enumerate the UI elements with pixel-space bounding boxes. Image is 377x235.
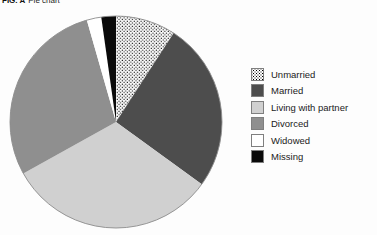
pie-chart <box>9 15 223 229</box>
legend-swatch-missing <box>251 150 264 163</box>
legend-item-missing: Missing <box>251 151 348 163</box>
legend-item-married: Married <box>251 85 348 97</box>
legend-label-living-with-partner: Living with partner <box>271 102 348 113</box>
legend-swatch-unmarried <box>251 68 264 81</box>
figure-caption: FIG. APie chart <box>2 0 60 5</box>
legend-swatch-divorced <box>251 117 264 130</box>
figure-canvas: FIG. APie chart Unmarried Married Living… <box>0 0 377 235</box>
figure-caption-title: Pie chart <box>28 0 60 5</box>
legend-item-unmarried: Unmarried <box>251 68 348 80</box>
legend-swatch-married <box>251 84 264 97</box>
legend-item-living-with-partner: Living with partner <box>251 101 348 113</box>
legend-item-divorced: Divorced <box>251 118 348 130</box>
chart-legend: Unmarried Married Living with partner Di… <box>251 68 348 163</box>
legend-label-divorced: Divorced <box>271 118 309 129</box>
legend-item-widowed: Widowed <box>251 134 348 146</box>
legend-swatch-living-with-partner <box>251 101 264 114</box>
legend-label-widowed: Widowed <box>271 135 310 146</box>
legend-label-missing: Missing <box>271 151 303 162</box>
figure-caption-prefix: FIG. A <box>2 0 25 5</box>
legend-swatch-widowed <box>251 134 264 147</box>
legend-label-unmarried: Unmarried <box>271 69 315 80</box>
legend-label-married: Married <box>271 85 303 96</box>
